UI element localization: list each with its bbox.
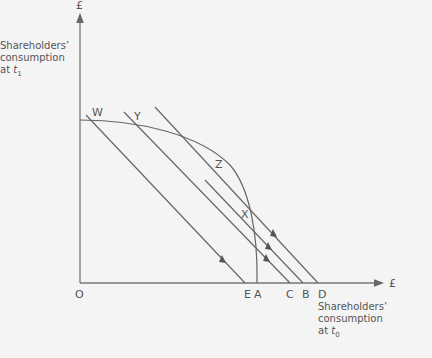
point-z-label: Z (215, 158, 223, 171)
intercept-e-label: E (244, 288, 251, 301)
origin-label: O (75, 288, 84, 301)
point-x-label: X (241, 208, 249, 221)
x-axis-title-line1: Shareholders’ (318, 301, 387, 313)
arrow-on-line-c (263, 254, 270, 262)
point-w-label: W (92, 106, 103, 119)
market-line-z-d (155, 107, 318, 283)
y-axis-title-line3: at t1 (0, 64, 69, 80)
x-axis-title-line2: consumption (318, 313, 387, 325)
x-axis-unit: £ (389, 277, 396, 290)
point-y-label: Y (134, 110, 141, 123)
arrow-on-line-b (265, 242, 272, 250)
intercept-a-label: A (254, 288, 262, 301)
intercept-d-label: D (318, 288, 326, 301)
x-axis-title-line3: at t0 (318, 325, 387, 341)
intercept-c-label: C (286, 288, 294, 301)
x-axis-title: Shareholders’ consumption at t0 (318, 301, 387, 341)
y-axis-title: Shareholders’ consumption at t1 (0, 40, 69, 80)
y-axis-unit: £ (76, 0, 83, 12)
market-line-b (205, 180, 303, 283)
intercept-b-label: B (302, 288, 310, 301)
y-axis-title-line2: consumption (0, 52, 69, 64)
y-axis-title-line1: Shareholders’ (0, 40, 69, 52)
